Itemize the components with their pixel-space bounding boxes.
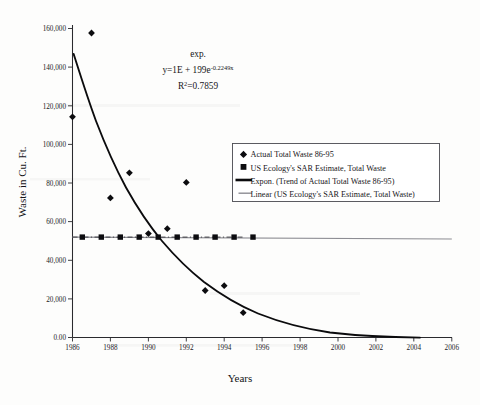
data-point-square	[156, 234, 161, 239]
x-tick-label: 2000	[331, 344, 346, 352]
annotation-equation: exp. y=1E + 199e-0.2249x R2=0.7859	[162, 49, 234, 91]
data-point-diamond	[107, 195, 114, 202]
chart-figure: 0.00 20,000 40,000 60,000 80,000 100,000…	[0, 0, 480, 405]
data-point-diamond	[145, 230, 152, 237]
paper-smudges	[30, 104, 412, 347]
data-point-diamond	[202, 287, 209, 294]
data-point-square	[137, 234, 142, 239]
chart-legend: Actual Total Waste 86-95 US Ecology's SA…	[233, 144, 440, 202]
series-actual-total-waste-points	[69, 30, 247, 316]
y-tick-label: 80,000	[46, 180, 66, 188]
data-point-square	[231, 234, 236, 239]
legend-item-linear-sar[interactable]: Linear (US Ecology's SAR Estimate, Total…	[239, 190, 416, 199]
x-axis-title: Years	[228, 372, 253, 384]
x-tick-label: 1996	[255, 344, 270, 352]
y-tick-label: 160,000	[43, 25, 67, 33]
svg-text:y=1E + 199e-0.2249x: y=1E + 199e-0.2249x	[162, 64, 234, 75]
legend-label: Linear (US Ecology's SAR Estimate, Total…	[251, 190, 416, 199]
data-point-diamond	[164, 225, 171, 232]
data-point-square	[175, 234, 180, 239]
x-tick-label: 1994	[217, 344, 232, 352]
annotation-line-1: exp.	[190, 49, 206, 59]
annotation-line-2-exponent: -0.2249x	[211, 64, 235, 71]
y-tick-label: 60,000	[46, 218, 66, 226]
legend-label: Actual Total Waste 86-95	[251, 150, 334, 159]
data-point-square	[118, 234, 123, 239]
x-tick-label: 1988	[103, 344, 118, 352]
y-tick-label: 40,000	[46, 257, 66, 265]
data-point-square	[212, 234, 217, 239]
y-tick-label: 100,000	[43, 141, 67, 149]
data-point-diamond	[69, 113, 76, 120]
annotation-line-3-suffix: =0.7859	[187, 81, 218, 91]
chart-svg: 0.00 20,000 40,000 60,000 80,000 100,000…	[0, 0, 480, 405]
data-point-diamond	[240, 309, 247, 316]
y-tick-label: 140,000	[43, 64, 67, 72]
svg-text:R2=0.7859: R2=0.7859	[178, 80, 219, 91]
data-point-square	[193, 234, 198, 239]
data-point-diamond	[183, 179, 190, 186]
y-axis-tick-labels: 0.00 20,000 40,000 60,000 80,000 100,000…	[43, 25, 67, 342]
y-tick-label: 120,000	[43, 103, 67, 111]
legend-item-expon-trend[interactable]: Expon. (Trend of Actual Total Waste 86-9…	[236, 177, 395, 186]
y-axis-title: Waste in Cu. Ft.	[16, 146, 28, 217]
square-marker-icon	[241, 164, 247, 170]
y-tick-label: 20,000	[46, 296, 66, 304]
data-point-square	[250, 234, 255, 239]
x-tick-label: 1986	[65, 344, 80, 352]
x-axis-ticks	[73, 338, 452, 342]
x-tick-label: 2002	[369, 344, 384, 352]
annotation-line-2-prefix: y=1E + 199e	[162, 65, 210, 75]
x-tick-label: 1990	[141, 344, 156, 352]
legend-item-actual-total-waste[interactable]: Actual Total Waste 86-95	[240, 150, 334, 159]
data-point-square	[99, 234, 104, 239]
x-tick-label: 2006	[445, 344, 460, 352]
data-point-square	[80, 234, 85, 239]
x-tick-label: 1992	[179, 344, 194, 352]
y-axis-ticks	[68, 29, 73, 338]
legend-label: Expon. (Trend of Actual Total Waste 86-9…	[251, 177, 395, 186]
data-point-diamond	[221, 282, 228, 289]
x-tick-label: 1998	[293, 344, 308, 352]
x-tick-label: 2004	[407, 344, 422, 352]
legend-label: US Ecology's SAR Estimate, Total Waste	[251, 164, 387, 173]
data-point-diamond	[88, 30, 95, 37]
legend-item-sar-estimate[interactable]: US Ecology's SAR Estimate, Total Waste	[241, 164, 387, 173]
y-tick-label: 0.00	[53, 334, 66, 342]
data-point-diamond	[126, 169, 133, 176]
